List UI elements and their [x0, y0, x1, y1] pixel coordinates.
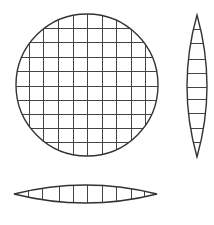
disc-grid-lines [16, 14, 158, 156]
vertical-edge-view-lens [185, 15, 209, 157]
horizontal-edge-view-lens [14, 183, 157, 205]
horizontal-lens-grid-lines [29, 183, 145, 205]
disc-projection-diagram [0, 0, 214, 225]
diagram-canvas [0, 0, 214, 225]
vertical-lens-grid-lines [185, 30, 209, 143]
vertical-lens-outline [187, 15, 207, 157]
gridded-disc [16, 14, 158, 156]
horizontal-lens-outline [14, 185, 157, 203]
